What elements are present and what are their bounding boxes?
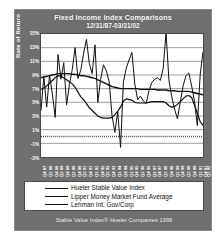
chart-subtitle: 12/31/87-03/31/02 xyxy=(14,22,212,30)
legend-label: Lipper Money Market Fund Average xyxy=(71,193,172,201)
x-tick-label: Q2 94 xyxy=(118,166,123,177)
x-tick-label: Q4 96 xyxy=(147,166,152,177)
y-tick-label: 7% xyxy=(25,86,39,91)
x-tick-label: Q2 90 xyxy=(72,166,77,177)
y-axis-ticks: 15%13%11%9%7%5%3%1%-1%-3% xyxy=(25,33,39,158)
series-lines xyxy=(41,34,203,147)
y-tick-label: 3% xyxy=(25,114,39,119)
x-tick-label: Q2 00 xyxy=(187,166,192,177)
legend-item: Lipper Money Market Fund Average xyxy=(25,192,203,200)
copyright-footer: Stable Value Index® Hueler Companies 199… xyxy=(24,214,204,226)
legend-swatch-icon xyxy=(45,196,68,197)
chart-figure: Fixed Income Index Comparisons 12/31/87-… xyxy=(0,0,224,239)
title-block: Fixed Income Index Comparisons 12/31/87-… xyxy=(14,13,212,30)
chart-panel: Fixed Income Index Comparisons 12/31/87-… xyxy=(14,9,212,231)
y-tick-label: 1% xyxy=(25,128,39,133)
chart-title: Fixed Income Index Comparisons xyxy=(14,13,212,22)
legend: Hueler Stable Value Index Lipper Money M… xyxy=(24,181,204,211)
y-tick-label: 5% xyxy=(25,100,39,105)
plot-area: Rate of Return 15%13%11%9%7%5%3%1%-1%-3%… xyxy=(24,33,204,178)
y-axis-label: Rate of Return xyxy=(15,1,21,71)
legend-swatch-icon xyxy=(45,204,68,205)
legend-label: Lehman Int. Gov/Corp xyxy=(71,201,134,209)
x-tick-label: Q4 00 xyxy=(193,166,198,177)
x-tick-label: Q1 02 xyxy=(207,166,212,177)
legend-item: Lehman Int. Gov/Corp xyxy=(25,201,203,209)
y-tick-label: -3% xyxy=(25,156,39,161)
x-tick-label: Q4 94 xyxy=(124,166,129,177)
plot-svg xyxy=(41,34,203,157)
x-tick-label: Q2 92 xyxy=(95,166,100,177)
y-tick-label: -1% xyxy=(25,142,39,147)
plot-box xyxy=(40,33,204,158)
y-tick-label: 13% xyxy=(25,44,39,49)
x-tick-label: Q2 96 xyxy=(141,166,146,177)
x-tick-label: Q2 98 xyxy=(164,166,169,177)
legend-item: Hueler Stable Value Index xyxy=(25,184,203,192)
y-tick-label: 11% xyxy=(25,58,39,63)
gridlines xyxy=(41,48,203,144)
legend-swatch-icon xyxy=(45,188,68,189)
x-axis-ticks: Q4 87Q2 88Q4 88Q2 89Q4 89Q2 90Q4 90Q2 91… xyxy=(40,160,204,178)
y-tick-label: 15% xyxy=(25,31,39,36)
x-tick-label: Q4 98 xyxy=(170,166,175,177)
y-tick-label: 9% xyxy=(25,72,39,77)
legend-label: Hueler Stable Value Index xyxy=(71,184,145,192)
x-tick-label: Q2 88 xyxy=(49,166,54,177)
